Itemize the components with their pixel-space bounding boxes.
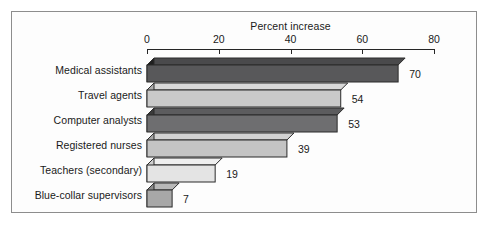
- bar-top-face: [147, 83, 348, 90]
- bar: [147, 183, 179, 207]
- bar-value-label: 54: [352, 93, 364, 105]
- x-tick-label-40: 40: [285, 33, 297, 45]
- category-label: Blue-collar supervisors: [35, 189, 142, 201]
- bar: [147, 83, 348, 107]
- x-tick-label-60: 60: [356, 33, 368, 45]
- bar-3d-shape: [147, 133, 296, 159]
- x-tick-mark-0: [147, 49, 148, 54]
- x-tick-label-20: 20: [213, 33, 225, 45]
- category-label: Teachers (secondary): [40, 164, 142, 176]
- category-label: Registered nurses: [56, 139, 142, 151]
- x-tick-mark-60: [362, 49, 363, 54]
- category-label: Computer analysts: [54, 114, 142, 126]
- x-tick-mark-80: [434, 49, 435, 54]
- bar-value-label: 19: [226, 168, 238, 180]
- figure-root: Percent increase 0 20 40 60 80 Medical a…: [0, 0, 493, 226]
- bar-front-face: [147, 65, 398, 82]
- bar-value-label: 53: [348, 118, 360, 130]
- x-tick-label-80: 80: [428, 33, 440, 45]
- bar-front-face: [147, 190, 172, 207]
- x-tick-mark-20: [219, 49, 220, 54]
- bar: [147, 58, 405, 82]
- bar: [147, 108, 344, 132]
- bar-3d-shape: [147, 158, 224, 184]
- bar-top-face: [147, 158, 222, 165]
- bar-front-face: [147, 165, 215, 182]
- bar-3d-shape: [147, 108, 346, 134]
- bar-top-face: [147, 108, 344, 115]
- category-label: Medical assistants: [55, 64, 142, 76]
- bar-top-face: [147, 133, 294, 140]
- bar-front-face: [147, 90, 341, 107]
- chart-plot-area: Percent increase 0 20 40 60 80 Medical a…: [0, 0, 493, 226]
- x-tick-label-0: 0: [144, 33, 150, 45]
- bar-3d-shape: [147, 183, 181, 209]
- bar-front-face: [147, 115, 337, 132]
- bar: [147, 158, 222, 182]
- bar-value-label: 70: [409, 68, 421, 80]
- bar-value-label: 7: [183, 193, 189, 205]
- bar-3d-shape: [147, 83, 350, 109]
- bar-3d-shape: [147, 58, 407, 84]
- bar-value-label: 39: [298, 143, 310, 155]
- x-tick-mark-40: [291, 49, 292, 54]
- bar-top-face: [147, 58, 405, 65]
- category-label: Travel agents: [78, 89, 142, 101]
- bar-front-face: [147, 140, 287, 157]
- bar: [147, 133, 294, 157]
- x-axis-title: Percent increase: [147, 20, 434, 32]
